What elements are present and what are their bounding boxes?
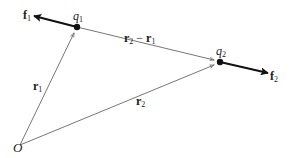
q1-charge-dot	[74, 24, 80, 30]
f2-force-arrow	[220, 62, 268, 73]
origin-label: O	[13, 141, 22, 154]
q2-label: q2	[216, 45, 226, 59]
diagram-svg	[0, 0, 294, 158]
r2-minus-r1-label: r2 − r1	[124, 32, 155, 46]
q1-label: q1	[73, 10, 83, 24]
f2-label: f2	[270, 70, 278, 84]
r1-label: r1	[33, 80, 42, 94]
q2-charge-dot	[217, 59, 223, 65]
r1-vector-line	[20, 33, 74, 145]
f1-force-arrow	[34, 16, 77, 27]
charge-vector-diagram: f1 q1 r2 − r1 q2 f2 r1 r2 O	[0, 0, 294, 158]
f1-label: f1	[23, 9, 31, 23]
r2-vector-line	[20, 65, 214, 145]
r2-label: r2	[136, 95, 145, 109]
